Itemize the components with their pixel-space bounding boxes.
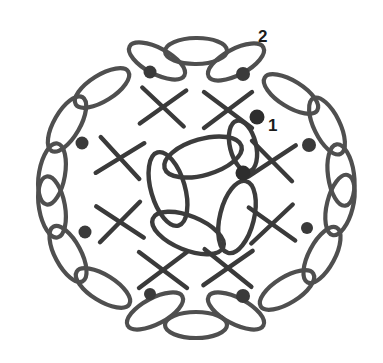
filled-dot-marker bbox=[250, 110, 265, 125]
figure-label-2: 2 bbox=[258, 27, 267, 46]
figure-container: 1 2 bbox=[0, 0, 383, 363]
ring-node bbox=[76, 137, 89, 150]
ring-node bbox=[144, 288, 156, 300]
central-hub-node bbox=[236, 166, 251, 181]
ring-node bbox=[302, 138, 316, 152]
ring-node bbox=[236, 67, 250, 81]
ring-node bbox=[301, 222, 313, 234]
ring-node bbox=[144, 66, 157, 79]
schematic-diagram: 1 2 bbox=[0, 0, 383, 363]
figure-label-1: 1 bbox=[268, 116, 277, 135]
ring-node bbox=[79, 226, 92, 239]
ring-node bbox=[236, 289, 250, 303]
